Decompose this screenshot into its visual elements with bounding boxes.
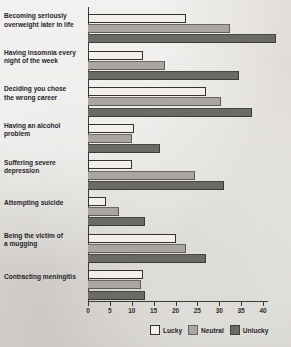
x-axis-tick [197, 302, 198, 306]
bar-unlucky [88, 217, 145, 226]
category-label-line: overweight later in life [4, 21, 84, 30]
bar-neutral [88, 61, 165, 70]
category-label: Having an alcoholproblem [4, 122, 84, 139]
bar-unlucky [88, 291, 145, 300]
category-label: Deciding you chosethe wrong career [4, 85, 84, 102]
bar-unlucky [88, 71, 239, 80]
category-label: Being the victim ofa mugging [4, 232, 84, 249]
x-axis-tick [176, 302, 177, 306]
chart-legend: LuckyNeutralUnlucky [150, 325, 268, 335]
bar-neutral [88, 244, 186, 253]
bar-neutral [88, 171, 195, 180]
x-axis-tick [88, 302, 89, 306]
bar-lucky [88, 270, 143, 279]
x-axis-tick [263, 302, 264, 306]
category-label-line: Having an alcohol [4, 122, 84, 131]
category-label-line: Having insomnia every [4, 49, 84, 58]
x-axis-tick-label: 5 [108, 307, 112, 314]
bar-lucky [88, 197, 106, 206]
bar-neutral [88, 207, 119, 216]
category-label: Attempting suicide [4, 199, 84, 208]
x-axis-tick [219, 302, 220, 306]
bar-lucky [88, 51, 143, 60]
plot-area [88, 8, 263, 300]
category-label-line: Deciding you chose [4, 85, 84, 94]
bar-lucky [88, 234, 176, 243]
x-axis-tick-label: 0 [86, 307, 90, 314]
bar-unlucky [88, 181, 224, 190]
category-label: Contracting meningitis [4, 273, 84, 282]
x-axis-tick [154, 302, 155, 306]
x-axis-tick-label: 35 [238, 307, 245, 314]
bar-neutral [88, 134, 132, 143]
category-label-line: Suffering severe [4, 159, 84, 168]
legend-item-lucky: Lucky [150, 325, 182, 335]
bar-lucky [88, 14, 186, 23]
category-label-line: Attempting suicide [4, 199, 84, 208]
category-label-line: depression [4, 167, 84, 176]
category-label-line: Being the victim of [4, 232, 84, 241]
bar-unlucky [88, 108, 252, 117]
x-axis-tick [110, 302, 111, 306]
bar-neutral [88, 24, 230, 33]
bar-lucky [88, 160, 132, 169]
bar-lucky [88, 124, 134, 133]
x-axis-tick-label: 25 [194, 307, 201, 314]
bar-lucky [88, 87, 206, 96]
category-label-line: night of the week [4, 57, 84, 66]
x-axis-tick [241, 302, 242, 306]
grouped-bar-chart: 0510152025303540 Becoming seriouslyoverw… [0, 0, 291, 347]
category-label-line: Contracting meningitis [4, 273, 84, 282]
category-label: Suffering severedepression [4, 159, 84, 176]
x-axis-tick-label: 10 [128, 307, 135, 314]
x-axis-tick-label: 15 [150, 307, 157, 314]
bar-neutral [88, 280, 141, 289]
category-label-line: Becoming seriously [4, 12, 84, 21]
category-label: Having insomnia everynight of the week [4, 49, 84, 66]
legend-swatch-lucky [150, 325, 160, 335]
x-axis-tick-label: 40 [259, 307, 266, 314]
x-axis-tick-label: 20 [172, 307, 179, 314]
bar-unlucky [88, 34, 276, 43]
legend-swatch-neutral [188, 325, 198, 335]
legend-item-neutral: Neutral [188, 325, 224, 335]
category-label: Becoming seriouslyoverweight later in li… [4, 12, 84, 29]
legend-label: Neutral [201, 327, 224, 334]
legend-swatch-unlucky [230, 325, 240, 335]
bar-unlucky [88, 254, 206, 263]
category-label-line: the wrong career [4, 94, 84, 103]
legend-label: Unlucky [243, 327, 269, 334]
x-axis-tick [132, 302, 133, 306]
bar-neutral [88, 97, 221, 106]
x-axis-tick-label: 30 [216, 307, 223, 314]
category-label-line: a mugging [4, 240, 84, 249]
category-label-line: problem [4, 130, 84, 139]
legend-item-unlucky: Unlucky [230, 325, 269, 335]
legend-label: Lucky [163, 327, 182, 334]
bar-unlucky [88, 144, 160, 153]
